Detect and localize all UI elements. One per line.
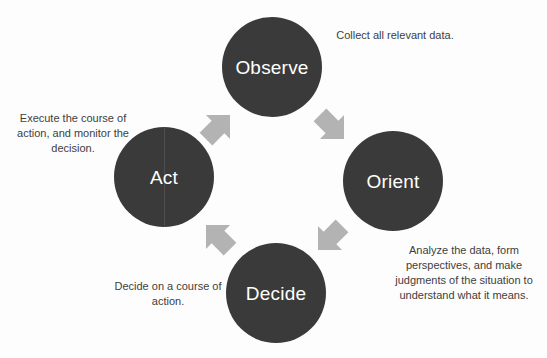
node-decide: Decide xyxy=(226,243,326,343)
arrow-decide-to-act-icon xyxy=(191,210,245,264)
caption-observe: Collect all relevant data. xyxy=(335,28,455,43)
caption-decide: Decide on a course of action. xyxy=(104,279,232,309)
node-act-seam xyxy=(164,127,165,227)
node-observe-label: Observe xyxy=(235,58,308,77)
node-orient-label: Orient xyxy=(367,172,420,191)
node-observe: Observe xyxy=(222,17,322,117)
ooda-loop-diagram: Observe Orient Decide Act Collect all re… xyxy=(0,0,547,358)
caption-act: Execute the course of action, and monito… xyxy=(8,111,138,156)
node-orient: Orient xyxy=(343,131,443,231)
node-decide-label: Decide xyxy=(246,284,306,303)
arrow-observe-to-orient-icon xyxy=(305,100,359,154)
caption-orient: Analyze the data, form perspectives, and… xyxy=(385,243,543,303)
